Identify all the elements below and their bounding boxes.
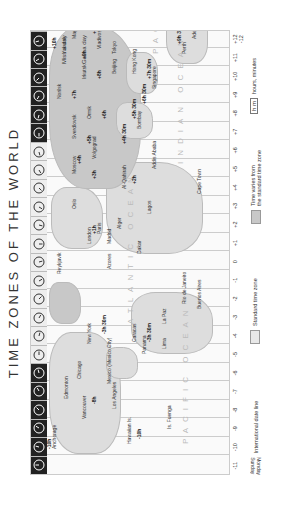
offset-label: +7h bbox=[71, 90, 77, 99]
clock-icon bbox=[31, 216, 47, 234]
zone-offset-label: +7 bbox=[232, 123, 242, 142]
city-label: Reykjavik bbox=[56, 253, 62, 274]
clock-icon bbox=[31, 400, 47, 418]
clock-icon bbox=[31, 363, 47, 381]
city-label: Norilsk bbox=[56, 84, 62, 99]
offset-label: -3h 30m bbox=[146, 323, 152, 342]
zone-offset-label: +12 -12 bbox=[232, 30, 242, 49]
clock-icon bbox=[31, 142, 47, 160]
city-label: Buenos Aires bbox=[196, 280, 202, 309]
city-label: Madrid bbox=[106, 229, 112, 244]
gain-a-day-note: Gain a day bbox=[81, 35, 87, 64]
city-label: Hong Kong bbox=[131, 49, 137, 74]
zone-offset-label: +11 bbox=[232, 48, 242, 67]
zone-offset-label: +5 bbox=[232, 160, 242, 179]
city-label: Chicago bbox=[76, 361, 82, 379]
legend-varies-line2: the standard time zone bbox=[256, 150, 262, 206]
city-label: Cape Town bbox=[196, 169, 202, 194]
standard-swatch-icon bbox=[250, 330, 260, 344]
zone-offset-label: -10 bbox=[232, 438, 242, 457]
legend-varies: Time varies from the standard time zone bbox=[250, 150, 262, 224]
city-label: Dakar bbox=[136, 241, 142, 254]
city-label: Azores bbox=[106, 253, 112, 269]
offset-label: +10h bbox=[51, 37, 57, 49]
legend-date-line: Sunday Monday International date line bbox=[250, 401, 262, 475]
city-label: Hawaiian Is. bbox=[126, 417, 132, 444]
offset-label: +8h bbox=[96, 70, 102, 79]
offset-label: +4h bbox=[76, 155, 82, 164]
city-label: Al-Qahirah bbox=[121, 165, 127, 189]
zone-boundary bbox=[47, 269, 229, 270]
zone-offset-scale: -11-10-9-8-7-6-5-4-3-2-10+1+2+3+4+5+6+7+… bbox=[232, 30, 242, 475]
australia bbox=[166, 30, 208, 64]
city-label: Irkutsk bbox=[81, 64, 87, 79]
clock-icon bbox=[31, 419, 47, 437]
clock-icon bbox=[31, 160, 47, 178]
page-title: TIME ZONES OF THE WORLD bbox=[6, 30, 21, 475]
zone-offset-label: -5 bbox=[232, 345, 242, 364]
zone-offset-label: 0 bbox=[232, 252, 242, 271]
clock-icon bbox=[31, 253, 47, 271]
zone-offset-label: +8 bbox=[232, 104, 242, 123]
time-zones-page: TIME ZONES OF THE WORLD PACIFIC OCEANATL… bbox=[0, 0, 297, 514]
zone-offset-label: +10 bbox=[232, 67, 242, 86]
ocean-label: PACIFIC bbox=[151, 30, 160, 54]
ocean-label: PACIFIC OCEAN bbox=[181, 304, 190, 444]
clock-icon bbox=[31, 179, 47, 197]
zone-offset-label: +6 bbox=[232, 141, 242, 160]
clock-icon bbox=[31, 50, 47, 68]
offset-label: +7h 30m bbox=[146, 59, 152, 79]
offset-label: +2h bbox=[131, 175, 137, 184]
legend-standard: Standard time zone bbox=[250, 278, 260, 344]
zone-offset-label: -3 bbox=[232, 308, 242, 327]
city-label: Caracas bbox=[131, 323, 137, 342]
zone-offset-label: +4 bbox=[232, 178, 242, 197]
zone-offset-label: -9 bbox=[232, 419, 242, 438]
zone-offset-label: +3 bbox=[232, 197, 242, 216]
city-label: Beijing bbox=[111, 59, 117, 74]
legend-standard-label: Standard time zone bbox=[252, 278, 258, 326]
city-label: Oslo bbox=[71, 199, 77, 209]
offset-label: +1h bbox=[91, 225, 97, 234]
offset-label: +6h 30m bbox=[141, 84, 147, 104]
clock-icon bbox=[31, 308, 47, 326]
zone-offset-label: -6 bbox=[232, 364, 242, 383]
offset-label: +9h 30m bbox=[176, 30, 182, 44]
offset-label: -8h bbox=[91, 397, 97, 405]
offset-label: +11h bbox=[91, 30, 97, 34]
zone-offset-label: -7 bbox=[232, 382, 242, 401]
clock-icon bbox=[31, 382, 47, 400]
city-label: New York bbox=[86, 323, 92, 344]
offset-label: -10h bbox=[136, 429, 142, 439]
world-map: PACIFIC OCEANATLANTIC OCEANINDIAN OCEANP… bbox=[30, 30, 230, 475]
zone-offset-label: -2 bbox=[232, 290, 242, 309]
city-label: Tokyo bbox=[111, 41, 117, 54]
city-label: Sverdlovsk bbox=[71, 115, 77, 139]
clock-icon bbox=[31, 105, 47, 123]
greenland bbox=[49, 282, 81, 324]
zone-offset-label: -8 bbox=[232, 401, 242, 420]
clock-icon bbox=[31, 271, 47, 289]
ocean-label: ATLANTIC OCEAN bbox=[126, 171, 135, 324]
offset-label: +3h bbox=[91, 170, 97, 179]
zone-offset-label: +2 bbox=[232, 215, 242, 234]
city-label: Mexico (Mexico City) bbox=[106, 338, 112, 384]
city-label: Adelaide bbox=[191, 30, 197, 39]
offset-label: +5h 30m bbox=[131, 99, 137, 119]
clock-icon bbox=[31, 68, 47, 86]
clock-icon bbox=[31, 345, 47, 363]
city-label: Lagos bbox=[146, 200, 152, 214]
city-label: Rio de Janeiro bbox=[181, 272, 187, 304]
offset-label: +6h bbox=[101, 110, 107, 119]
offset-label: -3h 30m bbox=[101, 315, 107, 334]
zone-offset-label: -11 bbox=[232, 456, 242, 475]
hm-box: h m bbox=[250, 98, 258, 114]
clock-icon bbox=[31, 437, 47, 455]
zone-offset-label: +1 bbox=[232, 234, 242, 253]
clock-icon bbox=[31, 289, 47, 307]
offset-label: +5h bbox=[86, 135, 92, 144]
city-label: La Paz bbox=[161, 308, 167, 324]
legend-hm: h m hours, minutes bbox=[250, 58, 258, 114]
offset-label: +4h 30m bbox=[121, 124, 127, 144]
clock-strip bbox=[31, 31, 47, 474]
